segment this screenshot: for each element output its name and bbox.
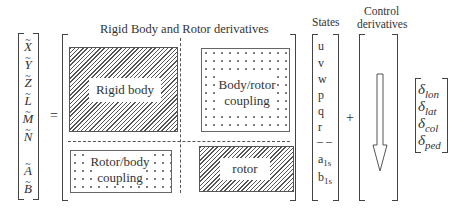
body-rotor-coupling-line2: coupling <box>224 93 270 109</box>
state-p: p <box>318 89 324 101</box>
control-left-bracket <box>359 34 365 201</box>
state-q: q <box>318 105 324 117</box>
states-title: States <box>312 16 339 28</box>
state-u: u <box>318 40 324 52</box>
state-a1s: a1s <box>318 153 331 169</box>
matrix-horizontal-divider <box>68 141 290 142</box>
body-rotor-coupling-line1: Body/rotor <box>218 77 275 93</box>
lhs-symbol-n: ~N <box>18 130 38 143</box>
rotor-label: rotor <box>220 158 270 180</box>
state-r: r <box>318 121 322 133</box>
delta-ped: δped <box>418 133 441 153</box>
control-inputs-right-bracket <box>442 78 448 153</box>
control-title-line1: Control <box>364 5 399 17</box>
rigid-body-label: Rigid body <box>89 78 161 102</box>
states-separator: – – <box>317 135 332 147</box>
state-v: v <box>318 57 324 69</box>
control-right-bracket <box>392 34 398 201</box>
down-arrow-icon <box>371 73 389 173</box>
matrix-vertical-divider <box>180 38 181 193</box>
plus-sign: + <box>346 110 354 126</box>
body-rotor-coupling-label: Body/rotor coupling <box>218 76 276 110</box>
matrix-left-bracket <box>62 34 68 201</box>
rotor-body-coupling-line2: coupling <box>97 170 143 186</box>
rotor-body-coupling-line1: Rotor/body <box>90 154 149 170</box>
state-w: w <box>318 73 327 85</box>
lhs-symbol-b: ~B <box>18 182 38 195</box>
states-right-bracket <box>333 34 339 201</box>
matrix-title: Rigid Body and Rotor derivatives <box>100 22 269 37</box>
state-b1s: b1s <box>318 171 332 187</box>
rotor-body-coupling-label: Rotor/body coupling <box>88 153 152 187</box>
control-title-line2: derivatives <box>357 18 407 30</box>
equals-sign: = <box>50 108 58 124</box>
